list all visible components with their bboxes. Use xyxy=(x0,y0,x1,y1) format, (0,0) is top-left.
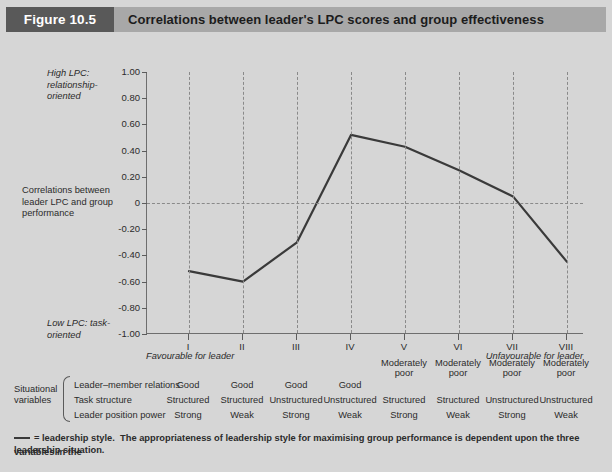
x-tick-mark xyxy=(458,334,459,340)
category-gridline xyxy=(351,72,352,333)
y-tick-mark xyxy=(142,151,147,152)
y-tick-mark xyxy=(142,72,147,73)
category-gridline xyxy=(459,72,460,333)
x-tick-label: V xyxy=(384,341,424,352)
y-tick-label: -0.80 xyxy=(92,302,140,313)
figure-header: Figure 10.5 Correlations between leader'… xyxy=(6,7,606,32)
table-cell: Unstructured xyxy=(530,395,602,405)
y-tick-label: 0.20 xyxy=(92,171,140,182)
y-tick-mark xyxy=(142,98,147,99)
x-tick-mark xyxy=(296,334,297,340)
category-gridline xyxy=(189,72,190,333)
line-legend-icon xyxy=(14,437,30,439)
y-tick-mark xyxy=(142,255,147,256)
y-tick-label: -0.40 xyxy=(92,249,140,260)
category-gridline xyxy=(405,72,406,333)
high-lpc-annotation: High LPC: relationship-oriented xyxy=(47,68,122,103)
x-tick-label: III xyxy=(276,341,316,352)
y-tick-label: 0.60 xyxy=(92,118,140,129)
figure-number-badge: Figure 10.5 xyxy=(6,7,114,32)
footnote-line2: leadership situation. xyxy=(14,445,104,455)
zero-gridline xyxy=(147,203,583,204)
y-tick-mark xyxy=(142,308,147,309)
x-tick-label: IV xyxy=(330,341,370,352)
x-tick-mark xyxy=(350,334,351,340)
x-tick-mark xyxy=(188,334,189,340)
footnote-legend-text: = leadership style. xyxy=(34,433,115,443)
table-cell: Weak xyxy=(530,410,602,420)
y-tick-mark xyxy=(142,282,147,283)
category-gridline xyxy=(513,72,514,333)
category-gridline xyxy=(567,72,568,333)
x-tick-mark xyxy=(512,334,513,340)
table-cell: Moderatelypoor xyxy=(531,358,601,378)
y-tick-mark xyxy=(142,177,147,178)
x-tick-mark xyxy=(566,334,567,340)
brace-icon xyxy=(63,376,70,422)
leader-member-relations-overflow-row: ModeratelypoorModeratelypoorModeratelypo… xyxy=(146,358,583,378)
low-lpc-annotation: Low LPC: task-oriented xyxy=(47,318,127,341)
y-tick-mark xyxy=(142,229,147,230)
x-tick-mark xyxy=(404,334,405,340)
y-tick-label: -0.20 xyxy=(92,223,140,234)
figure-title: Correlations between leader's LPC scores… xyxy=(114,7,606,32)
chart-plot-area xyxy=(146,72,583,334)
x-tick-label: VI xyxy=(438,341,478,352)
figure-panel: Figure 10.5 Correlations between leader'… xyxy=(0,0,612,472)
situational-variables-table: Situational variables Leader–member rela… xyxy=(0,376,612,424)
y-tick-label: -0.60 xyxy=(92,276,140,287)
table-cell: Good xyxy=(314,380,386,390)
x-tick-mark xyxy=(242,334,243,340)
y-tick-label: 0.40 xyxy=(92,145,140,156)
situational-variables-label: Situational variables xyxy=(14,384,62,406)
category-gridline xyxy=(243,72,244,333)
y-axis-title: Correlations between leader LPC and grou… xyxy=(22,185,122,220)
y-tick-mark xyxy=(142,124,147,125)
category-gridline xyxy=(297,72,298,333)
